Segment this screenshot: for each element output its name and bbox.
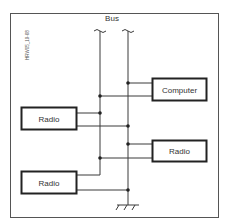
radio-label: Radio: [39, 115, 60, 124]
bus-diagram: HRW05_19-68 Bus Computer Radio: [0, 0, 225, 224]
computer-label: Computer: [162, 86, 197, 95]
computer-box: Computer: [153, 79, 207, 101]
radio-label: Radio: [169, 147, 190, 156]
radio-box-right: Radio: [153, 141, 207, 162]
radio-box-top-left: Radio: [22, 108, 77, 130]
bus-label: Bus: [105, 14, 119, 23]
radio-box-bottom-left: Radio: [22, 172, 77, 194]
radio-label: Radio: [39, 179, 60, 188]
figure-id-label: HRW05_19-68: [25, 30, 30, 60]
ground-icon: [116, 205, 139, 210]
